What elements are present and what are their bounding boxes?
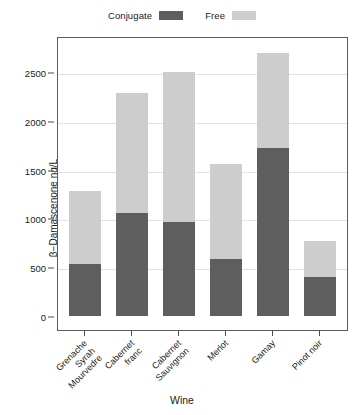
x-tick-label: CabernetSauvignon	[146, 338, 191, 383]
bar-segment-free[interactable]	[304, 241, 336, 277]
y-tick-mark	[48, 219, 54, 220]
bar-segment-free[interactable]	[210, 164, 242, 259]
legend-label-conjugate: Conjugate	[108, 10, 152, 21]
bar-group[interactable]	[210, 164, 242, 316]
bar-segment-conjugate[interactable]	[116, 213, 148, 316]
y-tick-label: 1000	[25, 214, 46, 225]
x-tick-mark	[272, 331, 273, 336]
bar-segment-conjugate[interactable]	[69, 264, 101, 316]
bar-segment-free[interactable]	[69, 191, 101, 265]
gridline	[58, 172, 347, 173]
x-tick-label: GrenacheSyrahMourvedre	[52, 338, 105, 391]
gridline	[58, 123, 347, 124]
x-tick-label-line: Gamay	[249, 338, 277, 366]
y-tick-mark	[48, 170, 54, 171]
y-tick-mark	[48, 317, 54, 318]
x-tick-label: Cabernetfranc	[103, 338, 144, 379]
y-tick-label: 2500	[25, 68, 46, 79]
x-tick-label: Pinot noir	[290, 338, 324, 372]
gridline	[58, 74, 347, 75]
x-tick-mark	[319, 331, 320, 336]
bar-segment-conjugate[interactable]	[257, 148, 289, 316]
x-tick-mark	[178, 331, 179, 336]
plot-inner	[58, 38, 347, 330]
legend-entry-free: Free	[205, 10, 256, 21]
bar-group[interactable]	[163, 72, 195, 316]
x-tick-mark	[131, 331, 132, 336]
y-tick-label: 2000	[25, 116, 46, 127]
x-tick-label-line: Pinot noir	[290, 338, 324, 372]
bar-segment-free[interactable]	[116, 93, 148, 212]
bar-segment-free[interactable]	[163, 72, 195, 222]
x-tick-label: Gamay	[249, 338, 277, 366]
legend-swatch-conjugate	[159, 11, 183, 20]
bar-group[interactable]	[116, 93, 148, 316]
y-axis: β−Damascenone ng/L 05001000150020002500	[0, 0, 57, 415]
x-tick-mark	[225, 331, 226, 336]
legend-swatch-free	[232, 11, 256, 20]
bar-segment-conjugate[interactable]	[304, 277, 336, 316]
x-tick-mark	[84, 331, 85, 336]
x-axis-title: Wine	[0, 394, 364, 406]
legend-entry-conjugate: Conjugate	[108, 10, 183, 21]
y-tick-mark	[48, 73, 54, 74]
y-tick-label: 500	[30, 263, 46, 274]
bar-segment-conjugate[interactable]	[163, 222, 195, 316]
y-tick-label: 0	[41, 312, 46, 323]
y-tick-mark	[48, 121, 54, 122]
gridline	[58, 220, 347, 221]
y-tick-label: 1500	[25, 165, 46, 176]
x-tick-label-line: Merlot	[205, 338, 230, 363]
bar-group[interactable]	[257, 53, 289, 316]
bar-segment-conjugate[interactable]	[210, 259, 242, 316]
x-tick-label: Merlot	[205, 338, 230, 363]
chart-figure: Conjugate Free β−Damascenone ng/L 050010…	[0, 0, 364, 415]
legend-label-free: Free	[205, 10, 225, 21]
y-tick-mark	[48, 268, 54, 269]
plot-area	[57, 37, 348, 331]
bar-group[interactable]	[69, 191, 101, 316]
bar-segment-free[interactable]	[257, 53, 289, 148]
bar-group[interactable]	[304, 241, 336, 316]
